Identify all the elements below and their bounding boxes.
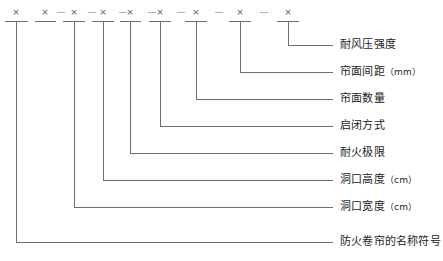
- label-text: 洞口宽度: [340, 200, 385, 213]
- label-unit: （cm）: [385, 175, 418, 185]
- dash-symbol-5: —: [175, 8, 187, 17]
- cross-symbol-8: ×: [234, 8, 246, 17]
- label-unit: （mm）: [385, 67, 421, 77]
- fire-shutter-designation-diagram: × — × × — × — × — × — × — × — ×: [0, 0, 443, 261]
- label-wind-pressure-resistance: 耐风压强度: [340, 39, 396, 50]
- leader-stem-3: [196, 21, 197, 99]
- label-text: 防火卷帘的名称符号: [340, 235, 441, 248]
- leader-stem-1: [288, 21, 289, 45]
- leader-line-4: [160, 126, 333, 127]
- leader-stem-6: [103, 21, 104, 180]
- label-text: 洞口高度: [340, 173, 385, 186]
- cross-symbol-7: ×: [190, 8, 202, 17]
- label-product-name-symbol: 防火卷帘的名称符号: [340, 236, 441, 247]
- label-text: 帘面数量: [340, 92, 385, 105]
- leader-line-1: [288, 45, 333, 46]
- label-text: 耐风压强度: [340, 38, 396, 51]
- cross-symbol-1: ×: [10, 8, 22, 17]
- label-text: 帘面间距: [340, 65, 385, 78]
- cross-symbol-2: ×: [39, 8, 51, 17]
- dash-symbol-6: —: [213, 8, 225, 17]
- cap-2: [35, 21, 56, 22]
- cross-symbol-4: ×: [97, 8, 109, 17]
- cross-symbol-9: ×: [282, 8, 294, 17]
- cross-symbol-3: ×: [68, 8, 80, 17]
- cross-symbol-6: ×: [154, 8, 166, 17]
- leader-stem-7: [74, 21, 75, 207]
- leader-stem-2: [240, 21, 241, 72]
- label-text: 启闭方式: [340, 119, 385, 132]
- label-text: 耐火极限: [340, 146, 385, 159]
- leader-line-3: [196, 99, 333, 100]
- dash-symbol-1: —: [55, 8, 67, 17]
- label-unit: （cm）: [385, 202, 418, 212]
- label-opening-width: 洞口宽度（cm）: [340, 201, 417, 212]
- cross-symbol-5: ×: [124, 8, 136, 17]
- leader-stem-4: [160, 21, 161, 126]
- leader-line-5: [130, 153, 333, 154]
- leader-line-8: [16, 242, 333, 243]
- label-curtain-spacing: 帘面间距（mm）: [340, 66, 421, 77]
- label-opening-height: 洞口高度（cm）: [340, 174, 417, 185]
- leader-stem-8: [16, 21, 17, 242]
- label-opening-closing-method: 启闭方式: [340, 120, 385, 131]
- label-curtain-quantity: 帘面数量: [340, 93, 385, 104]
- label-fire-resistance-limit: 耐火极限: [340, 147, 385, 158]
- leader-line-2: [240, 72, 333, 73]
- dash-symbol-7: —: [258, 8, 270, 17]
- leader-line-7: [74, 207, 333, 208]
- leader-line-6: [103, 180, 333, 181]
- leader-stem-5: [130, 21, 131, 153]
